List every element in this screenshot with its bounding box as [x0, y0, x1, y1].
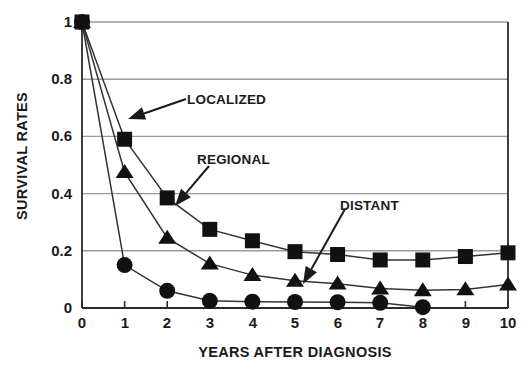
data-point-circle — [287, 294, 303, 310]
data-point-circle — [372, 295, 388, 311]
data-point-square — [202, 222, 217, 237]
arrow-shaft — [186, 166, 209, 193]
series-localized — [75, 15, 516, 268]
gridlines — [82, 22, 508, 251]
data-point-square — [373, 252, 388, 267]
arrow-regional — [175, 166, 209, 206]
plot-canvas — [0, 0, 530, 375]
data-point-circle — [330, 294, 346, 310]
data-point-square — [117, 132, 132, 147]
data-point-square — [501, 245, 516, 260]
series-line — [82, 22, 508, 260]
arrow-shaft — [144, 99, 186, 113]
data-point-triangle — [158, 230, 176, 244]
data-point-square — [160, 190, 175, 205]
data-point-square — [458, 249, 473, 264]
data-point-circle — [202, 293, 218, 309]
data-point-square — [245, 233, 260, 248]
data-point-circle — [244, 294, 260, 310]
plot-frame — [82, 22, 508, 308]
data-point-square — [288, 244, 303, 259]
data-point-circle — [159, 283, 175, 299]
data-point-square — [330, 247, 345, 262]
data-point-triangle — [499, 276, 517, 290]
data-point-square — [415, 252, 430, 267]
data-point-triangle — [116, 164, 134, 178]
series-line — [82, 22, 423, 307]
arrow-distant — [303, 209, 345, 284]
data-point-circle — [74, 14, 90, 30]
arrow-head — [128, 107, 146, 119]
data-point-triangle — [201, 256, 219, 270]
data-point-triangle — [414, 282, 432, 296]
data-point-circle — [415, 299, 431, 315]
survival-rates-chart: SURVIVAL RATES YEARS AFTER DIAGNOSIS 1 0… — [0, 0, 530, 375]
data-point-circle — [117, 257, 133, 273]
series-layer — [73, 14, 517, 315]
arrow-localized — [128, 99, 186, 120]
